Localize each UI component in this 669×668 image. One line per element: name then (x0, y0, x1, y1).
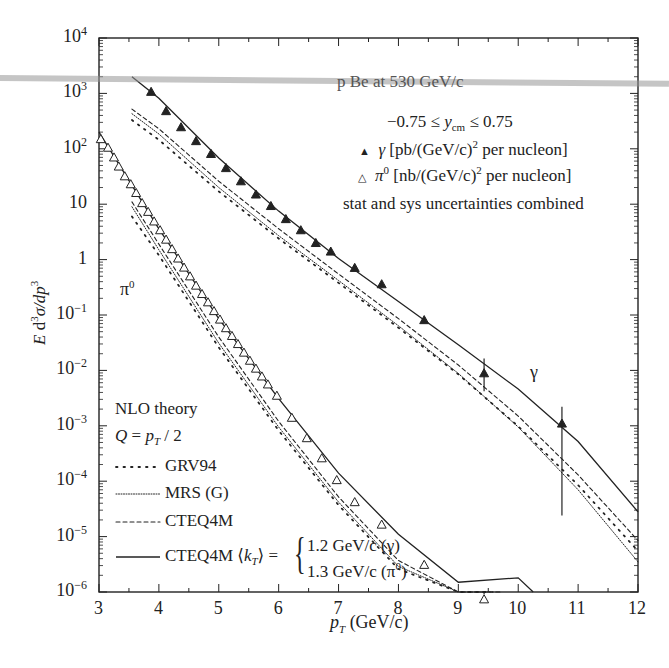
y-label-sigma: σ/d (30, 295, 49, 317)
legend-pi0: △ π0 [nb/(GeV/c)2 per nucleon] (358, 167, 572, 184)
axes-frame (99, 38, 638, 592)
pi0-unit-b: per nucleon] (482, 166, 572, 185)
nlo-theory-header: NLO theory (115, 400, 198, 417)
pi0-point (203, 298, 212, 306)
pi-sym: π (375, 166, 384, 185)
y-tick-label: 10−5 (56, 525, 87, 546)
x-tick-label: 4 (154, 598, 163, 619)
pi0-point (168, 245, 177, 253)
y-tick-label: 10−2 (56, 358, 87, 379)
scale-eq: = (127, 426, 145, 445)
rapidity-a: −0.75 ≤ (387, 112, 444, 131)
scale-div: / 2 (160, 426, 182, 445)
gamma-point (557, 419, 566, 427)
legend-line-samples (116, 467, 160, 557)
pi0-point (245, 356, 254, 364)
pi0-point (186, 272, 195, 280)
pi0-point (317, 454, 326, 462)
chart-title: p Be at 530 GeV/c (337, 73, 464, 90)
pi0-point (96, 135, 105, 143)
brace-line-pi0: 1.3 GeV/c (π0) (307, 563, 407, 580)
x-tick-label: 12 (628, 598, 646, 619)
kt-a: CTEQ4M ⟨ (165, 546, 244, 565)
rapidity-var: y (444, 112, 452, 131)
pi0-point (156, 226, 165, 234)
pi0-point (350, 498, 359, 506)
pi0-point (103, 143, 112, 151)
legend-grv94: GRV94 (165, 457, 217, 474)
pi0-point (132, 188, 141, 196)
y-label-p: p (30, 286, 49, 295)
pi0-point (198, 289, 207, 297)
x-tick-label: 10 (508, 598, 526, 619)
x-tick-label: 3 (94, 598, 103, 619)
y-tick-label: 103 (63, 81, 87, 102)
axis-ticks (99, 38, 638, 592)
pi0-point (192, 281, 201, 289)
scale-p: p (145, 426, 154, 445)
pi0-point (150, 217, 159, 225)
legend-mrsg: MRS (G) (165, 484, 229, 501)
pi0-point (109, 153, 118, 161)
y-tick-label: 1 (78, 248, 87, 269)
rapidity-b: ≤ 0.75 (465, 112, 513, 131)
gamma-unit-a: [pb/(GeV/c) (385, 140, 472, 159)
brace2-a: 1.3 GeV/c (π (307, 562, 395, 581)
pi0-point (332, 476, 341, 484)
gamma-point (326, 247, 335, 255)
pi0-point (420, 560, 429, 568)
scale-choice: Q = pT / 2 (115, 427, 182, 444)
uncertainty-note: stat and sys uncertainties combined (343, 195, 584, 212)
y-tick-label: 10−3 (56, 414, 87, 435)
pi0-point (162, 235, 171, 243)
pi0-point (480, 595, 489, 603)
y-tick-label: 10−6 (56, 580, 87, 601)
pi0-point (174, 254, 183, 262)
gamma-unit-b: per nucleon] (478, 140, 568, 159)
y-label-sup1: 3 (28, 316, 40, 322)
gamma-annotation: γ (530, 363, 538, 381)
y-axis-label: E d3σ/dp3 (30, 281, 50, 345)
legend-gamma: ▲ γ [pb/(GeV/c)2 per nucleon] (359, 141, 568, 158)
pi0-point (257, 372, 266, 380)
pi0-point (239, 348, 248, 356)
pi0-point (144, 207, 153, 215)
y-label-sup2: 3 (28, 281, 40, 287)
pi0-annot-sup: 0 (129, 278, 135, 290)
rapidity-range: −0.75 ≤ ycm ≤ 0.75 (387, 113, 513, 130)
pi0-annotation: π0 (120, 280, 135, 298)
gamma-point (147, 87, 156, 95)
legend-cteq4m-kt: CTEQ4M ⟨kT⟩ = (165, 547, 278, 564)
y-tick-label: 10 (69, 192, 87, 213)
brace2-b: ) (401, 562, 407, 581)
gamma-point (480, 369, 489, 377)
x-tick-label: 11 (568, 598, 585, 619)
open-triangle-icon: △ (358, 171, 366, 183)
y-tick-label: 104 (63, 26, 87, 47)
brace-icon: { (294, 534, 306, 574)
legend-cteq4m: CTEQ4M (165, 512, 233, 529)
x-axis-label: pT (GeV/c) (330, 613, 409, 631)
y-tick-label: 10−4 (56, 469, 87, 490)
x-tick-label: 6 (274, 598, 283, 619)
y-label-d: d (30, 322, 49, 335)
rapidity-sub: cm (452, 121, 465, 133)
pi0-point (126, 180, 135, 188)
pi0-unit-a: [nb/(GeV/c) (389, 166, 476, 185)
x-axis-unit: (GeV/c) (345, 612, 408, 632)
y-tick-label: 102 (63, 137, 87, 158)
pi0-point (287, 413, 296, 421)
pi0-point (114, 162, 123, 170)
filled-triangle-icon: ▲ (359, 145, 370, 157)
gamma-point (420, 316, 429, 324)
pi0-point (120, 172, 129, 180)
x-axis-var: p (330, 612, 339, 632)
pi0-point (180, 263, 189, 271)
gamma-point (377, 280, 386, 288)
y-label-E: E (30, 335, 49, 345)
pi0-point (251, 364, 260, 372)
pi0-annot-sym: π (120, 279, 129, 299)
pi0-point (138, 199, 147, 207)
brace-line-gamma: 1.2 GeV/c (γ) (307, 537, 400, 554)
x-tick-label: 9 (453, 598, 462, 619)
